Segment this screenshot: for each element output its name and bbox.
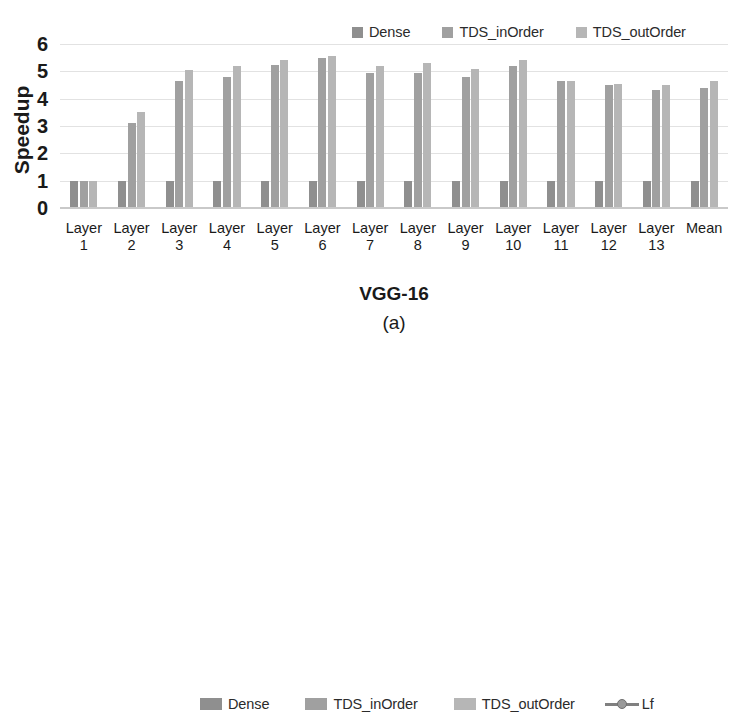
bar-tds_inorder-0[interactable]: [80, 181, 88, 208]
bar-dense-13[interactable]: [691, 181, 699, 208]
bar-dense-4[interactable]: [261, 181, 269, 208]
x-axis-title-a: VGG-16: [60, 283, 728, 305]
legend-label-tds-outorder: TDS_outOrder: [593, 24, 686, 40]
bar-tds_inorder-8[interactable]: [462, 77, 470, 208]
figure-container: Dense TDS_inOrder TDS_outOrder Speedup 0…: [0, 0, 737, 712]
bar-tds_outorder-6[interactable]: [376, 66, 384, 208]
caption-a: (a): [60, 312, 728, 334]
legend-item-lf[interactable]: Lf: [605, 696, 654, 712]
bar-tds_outorder-0[interactable]: [89, 181, 97, 208]
y-tick-label: 5: [14, 61, 48, 81]
x-tick-label-line1: Mean: [674, 220, 734, 237]
legend-item-tds-outorder[interactable]: TDS_outOrder: [576, 24, 686, 40]
bar-tds_outorder-3[interactable]: [233, 66, 241, 208]
bar-tds_outorder-2[interactable]: [185, 70, 193, 208]
bar-dense-5[interactable]: [309, 181, 317, 208]
bar-tds_outorder-8[interactable]: [471, 69, 479, 208]
x-tick-label-line2: 13: [626, 237, 686, 254]
bar-dense-11[interactable]: [595, 181, 603, 208]
chart-panel-a: Dense TDS_inOrder TDS_outOrder Speedup 0…: [0, 0, 737, 340]
legend-swatch-tds-outorder: [576, 27, 587, 38]
legend-item-dense[interactable]: Dense: [352, 24, 410, 40]
bar-tds_inorder-12[interactable]: [652, 90, 660, 208]
y-tick-label: 4: [14, 89, 48, 109]
bar-tds_inorder-7[interactable]: [414, 73, 422, 208]
legend-label-dense-b: Dense: [228, 696, 269, 712]
gridline: [60, 208, 728, 209]
bar-dense-6[interactable]: [357, 181, 365, 208]
legend-item-tds-inorder-b[interactable]: TDS_inOrder: [305, 696, 417, 712]
bar-tds_inorder-13[interactable]: [700, 88, 708, 208]
x-tick-label-13: Mean: [674, 220, 734, 237]
legend-label-lf: Lf: [642, 696, 654, 712]
gridline: [60, 71, 728, 72]
bar-tds_inorder-5[interactable]: [318, 58, 326, 208]
legend-swatch-dense-b: [200, 698, 222, 710]
bar-tds_inorder-2[interactable]: [175, 81, 183, 208]
bar-tds_inorder-3[interactable]: [223, 77, 231, 208]
legend-swatch-tds-outorder-b: [454, 698, 476, 710]
legend-line-lf-icon: [605, 698, 639, 710]
bar-tds_outorder-5[interactable]: [328, 56, 336, 208]
legend-swatch-tds-inorder: [442, 27, 453, 38]
legend-label-dense: Dense: [369, 24, 410, 40]
bar-dense-7[interactable]: [404, 181, 412, 208]
y-tick-label: 0: [14, 198, 48, 218]
bar-tds_inorder-4[interactable]: [271, 65, 279, 209]
legend-panel-a: Dense TDS_inOrder TDS_outOrder: [352, 24, 686, 40]
gridline: [60, 44, 728, 45]
bar-dense-1[interactable]: [118, 181, 126, 208]
bar-tds_inorder-10[interactable]: [557, 81, 565, 208]
y-tick-label: 1: [14, 171, 48, 191]
bar-dense-0[interactable]: [70, 181, 78, 208]
bar-dense-8[interactable]: [452, 181, 460, 208]
bar-tds_outorder-4[interactable]: [280, 60, 288, 208]
y-tick-label: 3: [14, 116, 48, 136]
y-tick-label: 6: [14, 34, 48, 54]
bar-tds_inorder-9[interactable]: [509, 66, 517, 208]
legend-swatch-dense: [352, 27, 363, 38]
x-axis-line-a: [60, 207, 728, 209]
bar-tds_inorder-1[interactable]: [128, 123, 136, 208]
bar-dense-12[interactable]: [643, 181, 651, 208]
bar-tds_outorder-12[interactable]: [662, 85, 670, 208]
bar-tds_outorder-1[interactable]: [137, 112, 145, 208]
gridline: [60, 181, 728, 182]
bar-tds_outorder-11[interactable]: [614, 84, 622, 208]
legend-label-tds-inorder-b: TDS_inOrder: [333, 696, 417, 712]
bar-tds_inorder-6[interactable]: [366, 73, 374, 208]
legend-label-tds-outorder-b: TDS_outOrder: [482, 696, 575, 712]
bar-tds_outorder-13[interactable]: [710, 81, 718, 208]
gridline: [60, 99, 728, 100]
bar-tds_outorder-10[interactable]: [567, 81, 575, 208]
bar-tds_outorder-7[interactable]: [423, 63, 431, 208]
legend-item-tds-outorder-b[interactable]: TDS_outOrder: [454, 696, 575, 712]
bar-dense-9[interactable]: [500, 181, 508, 208]
legend-panel-b: Dense TDS_inOrder TDS_outOrder Lf: [200, 696, 654, 712]
legend-item-dense-b[interactable]: Dense: [200, 696, 269, 712]
plot-area-a: [60, 44, 728, 208]
bar-dense-10[interactable]: [547, 181, 555, 208]
bar-tds_inorder-11[interactable]: [605, 85, 613, 208]
y-tick-label: 2: [14, 143, 48, 163]
bar-tds_outorder-9[interactable]: [519, 60, 527, 208]
gridline: [60, 126, 728, 127]
bar-dense-2[interactable]: [166, 181, 174, 208]
bar-dense-3[interactable]: [213, 181, 221, 208]
legend-item-tds-inorder[interactable]: TDS_inOrder: [442, 24, 543, 40]
gridline: [60, 153, 728, 154]
legend-label-tds-inorder: TDS_inOrder: [459, 24, 543, 40]
legend-swatch-tds-inorder-b: [305, 698, 327, 710]
chart-panel-b: Dense TDS_inOrder TDS_outOrder Lf Speedu…: [0, 340, 737, 712]
